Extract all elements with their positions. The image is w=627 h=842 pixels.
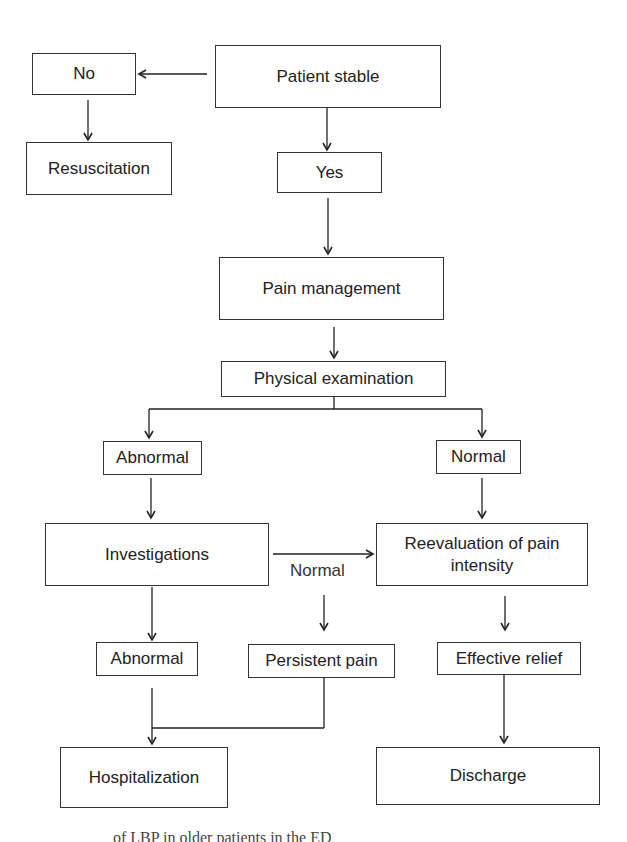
node-hospitalization: Hospitalization xyxy=(60,747,228,808)
edge-label-normal: Normal xyxy=(290,561,345,581)
node-normal-exam: Normal xyxy=(436,440,521,474)
node-physical-examination: Physical examination xyxy=(221,361,446,397)
node-effective-relief: Effective relief xyxy=(437,642,581,675)
figure-caption: of LBP in older patients in the ED xyxy=(113,829,331,842)
node-patient-stable: Patient stable xyxy=(215,45,441,108)
node-pain-management: Pain management xyxy=(219,257,444,320)
node-abnormal-investigations: Abnormal xyxy=(96,642,198,676)
node-resuscitation: Resuscitation xyxy=(26,142,172,195)
node-yes: Yes xyxy=(277,152,382,193)
node-discharge: Discharge xyxy=(376,747,600,805)
connector-lines xyxy=(0,0,627,842)
node-no: No xyxy=(32,53,136,95)
node-reevaluation: Reevaluation of pain intensity xyxy=(376,523,588,586)
node-persistent-pain: Persistent pain xyxy=(248,644,395,678)
node-investigations: Investigations xyxy=(45,523,269,586)
node-abnormal-exam: Abnormal xyxy=(103,441,202,475)
